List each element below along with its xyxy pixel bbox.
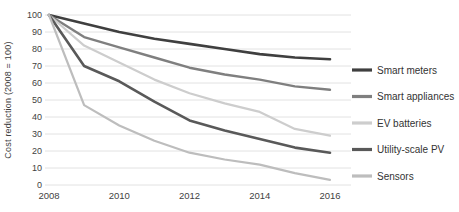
x-tick-label: 2016 bbox=[319, 190, 340, 201]
legend-label: Sensors bbox=[377, 171, 414, 182]
y-tick-label: 0 bbox=[37, 180, 42, 190]
plot-area: 0102030405060708090100200820102012201420… bbox=[0, 0, 459, 212]
x-tick-label: 2010 bbox=[109, 190, 130, 201]
y-tick-label: 60 bbox=[32, 78, 42, 88]
legend-label: EV batteries bbox=[377, 118, 431, 129]
series-line-smart-meters bbox=[49, 15, 330, 59]
series-line-ev-batteries bbox=[49, 15, 330, 136]
y-tick-label: 20 bbox=[32, 146, 42, 156]
y-tick-label: 100 bbox=[27, 10, 42, 20]
legend-label: Smart appliances bbox=[377, 91, 454, 102]
x-tick-label: 2008 bbox=[38, 190, 59, 201]
y-tick-label: 50 bbox=[32, 95, 42, 105]
y-tick-label: 90 bbox=[32, 27, 42, 37]
y-tick-label: 80 bbox=[32, 44, 42, 54]
y-tick-label: 10 bbox=[32, 163, 42, 173]
y-tick-label: 70 bbox=[32, 61, 42, 71]
y-tick-label: 40 bbox=[32, 112, 42, 122]
x-tick-label: 2012 bbox=[179, 190, 200, 201]
x-tick-label: 2014 bbox=[249, 190, 270, 201]
legend-label: Smart meters bbox=[377, 65, 437, 76]
legend-label: Utility-scale PV bbox=[377, 144, 445, 155]
y-tick-label: 30 bbox=[32, 129, 42, 139]
cost-reduction-chart: Cost reduction (2008 = 100) 010203040506… bbox=[0, 0, 459, 212]
